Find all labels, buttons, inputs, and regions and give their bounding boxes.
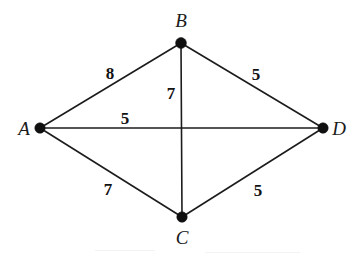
scan-artifact-1	[205, 252, 300, 253]
node-dot-b	[176, 38, 187, 49]
scan-artifact-0	[95, 250, 155, 251]
node-label-d: D	[332, 119, 346, 138]
edge-a-c	[40, 128, 182, 217]
node-label-b: B	[175, 11, 187, 30]
graph-figure: ABCD 857575	[0, 0, 354, 256]
edge-c-d	[182, 128, 323, 217]
edge-weight-a-d: 5	[121, 110, 130, 127]
edge-weight-a-b: 8	[106, 65, 115, 82]
edges-group	[40, 43, 323, 217]
node-dot-a	[35, 123, 45, 133]
node-label-c: C	[176, 228, 189, 247]
edge-b-c	[181, 43, 182, 217]
node-dot-c	[177, 212, 187, 222]
graph-canvas	[0, 0, 354, 256]
edge-weight-b-d: 5	[252, 66, 261, 83]
node-dot-d	[318, 123, 328, 133]
edge-weight-c-d: 5	[254, 182, 263, 199]
node-label-a: A	[18, 119, 30, 138]
edge-a-b	[40, 43, 181, 128]
edge-weight-b-c: 7	[167, 85, 176, 102]
edge-b-d	[181, 43, 323, 128]
edge-weight-a-c: 7	[104, 181, 113, 198]
